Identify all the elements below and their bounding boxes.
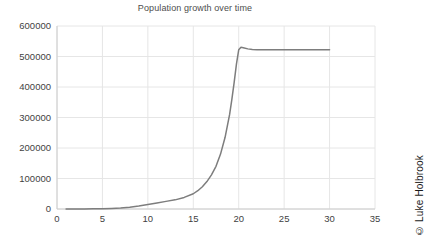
x-tick-label: 15 [178,213,208,224]
y-tick-label: 400000 [3,81,51,92]
chart-container: Population growth over time 010000020000… [0,0,427,244]
gridlines [57,26,375,209]
x-tick-label: 10 [133,213,163,224]
y-tick-label: 200000 [3,142,51,153]
x-tick-label: 0 [42,213,72,224]
x-tick-label: 20 [224,213,254,224]
x-tick-label: 25 [269,213,299,224]
y-tick-label: 500000 [3,51,51,62]
y-tick-label: 300000 [3,112,51,123]
y-tick-label: 100000 [3,173,51,184]
x-tick-label: 35 [360,213,390,224]
x-tick-label: 5 [87,213,117,224]
series-group [66,47,329,209]
y-tick-label: 600000 [3,20,51,31]
x-tick-label: 30 [315,213,345,224]
copyright-watermark: © Luke Holbrook [414,155,425,236]
chart-plot-area [0,0,427,244]
